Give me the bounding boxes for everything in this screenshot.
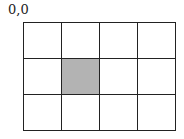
grid-cell	[138, 95, 176, 131]
grid-cell	[24, 95, 62, 131]
grid-cell	[62, 95, 100, 131]
grid-cell	[100, 95, 138, 131]
grid-cell	[100, 23, 138, 59]
grid-cell	[62, 23, 100, 59]
grid	[23, 22, 176, 131]
grid-cell-shaded	[62, 59, 100, 95]
grid-cell	[138, 59, 176, 95]
grid-cell	[24, 23, 62, 59]
grid-cell	[24, 59, 62, 95]
origin-label: 0,0	[8, 3, 29, 16]
grid-cell	[100, 59, 138, 95]
grid-cell	[138, 23, 176, 59]
